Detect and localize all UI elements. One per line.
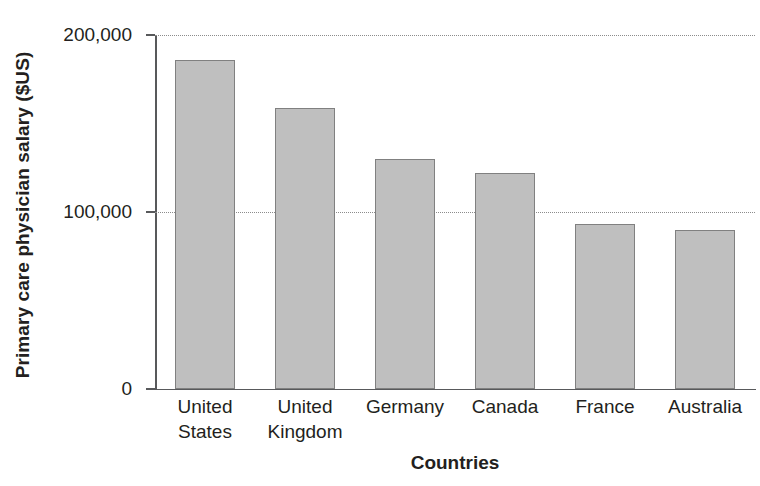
bar [675, 230, 735, 389]
y-axis-tick [146, 388, 155, 390]
x-axis-tick-label-line: Kingdom [255, 419, 355, 444]
y-axis-tick-label: 0 [121, 378, 132, 400]
x-axis-tick-label-line: Germany [355, 394, 455, 419]
x-axis-tick-label-line: United [155, 394, 255, 419]
gridline [155, 35, 755, 36]
x-axis-title: Countries [155, 452, 755, 474]
x-axis-tick-label-line: United [255, 394, 355, 419]
y-axis-tick [146, 34, 155, 36]
bar [375, 159, 435, 389]
x-axis-tick-label-line: States [155, 419, 255, 444]
x-axis-tick-label: France [555, 394, 655, 419]
plot-area [155, 35, 755, 389]
bar-chart-figure: Primary care physician salary ($US) 0100… [0, 0, 760, 486]
x-axis-tick-label-line: France [555, 394, 655, 419]
x-axis-tick-label: UnitedKingdom [255, 394, 355, 444]
gridline [155, 212, 755, 213]
bar [575, 224, 635, 389]
x-axis-tick-label: Germany [355, 394, 455, 419]
y-axis-tick-labels: 0100,000200,000 [0, 0, 146, 486]
x-axis-tick-label: UnitedStates [155, 394, 255, 444]
y-axis-tick-label: 200,000 [63, 24, 132, 46]
x-axis-tick-label-line: Australia [655, 394, 755, 419]
x-axis-tick-label: Canada [455, 394, 555, 419]
bar [475, 173, 535, 389]
bar [175, 60, 235, 389]
y-axis-tick [146, 211, 155, 213]
y-axis-tick-label: 100,000 [63, 201, 132, 223]
bar [275, 108, 335, 389]
x-axis-tick-label-line: Canada [455, 394, 555, 419]
x-axis-tick-label: Australia [655, 394, 755, 419]
x-axis-tick-labels: UnitedStatesUnitedKingdomGermanyCanadaFr… [155, 394, 755, 446]
